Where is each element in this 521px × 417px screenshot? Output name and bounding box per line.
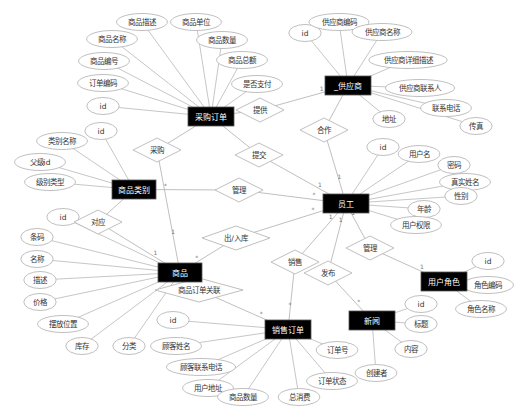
attribute-employee[interactable]: 性别 <box>445 188 477 205</box>
attribute-user_role[interactable]: 角色编码 <box>463 277 514 294</box>
attribute-sales_order[interactable]: 订单号 <box>316 342 358 359</box>
relationship-manage2[interactable]: 管理 <box>346 236 394 260</box>
attribute-supplier[interactable]: 供应商联系人 <box>385 80 454 97</box>
entity-category[interactable]: 商品类别 <box>112 180 156 199</box>
attribute-sales_order[interactable]: 总消费 <box>278 389 320 406</box>
attribute-purchase_order[interactable]: 是否支付 <box>232 76 283 93</box>
attribute-sales_order[interactable]: 顾客联系电话 <box>166 359 235 376</box>
relationship-label: 出/入库 <box>224 233 249 243</box>
attribute-user_role[interactable]: 角色名称 <box>456 301 507 318</box>
attribute-product[interactable]: 名称 <box>21 251 53 268</box>
attribute-purchase_order[interactable]: 订单编码 <box>78 75 129 92</box>
attribute-product[interactable]: 摆放位置 <box>38 316 89 333</box>
attribute-label: 条码 <box>30 232 45 242</box>
attribute-sales_order[interactable]: 订单状态 <box>307 373 358 390</box>
attribute-supplier[interactable]: 传真 <box>460 118 492 135</box>
entity-employee[interactable]: 员工 <box>323 194 369 213</box>
cardinality-label: 1 <box>329 213 333 220</box>
attribute-purchase_order[interactable]: 商品数量 <box>197 32 248 49</box>
attribute-user_role[interactable]: id <box>472 253 504 270</box>
attribute-purchase_order[interactable]: 商品单位 <box>171 14 222 31</box>
attribute-purchase_order[interactable]: 商品总额 <box>217 52 268 69</box>
attribute-employee[interactable]: 密码 <box>438 157 470 174</box>
attribute-purchase_order[interactable]: 商品编号 <box>79 53 130 70</box>
attribute-sales_order[interactable]: 顾客姓名 <box>151 338 202 355</box>
relationship-stock[interactable]: 出/入库 <box>202 226 270 250</box>
attribute-label: 订单状态 <box>318 376 347 386</box>
attribute-product[interactable]: 分类 <box>113 338 145 355</box>
entity-user_role[interactable]: 用户角色 <box>421 272 467 291</box>
entity-sales_order[interactable]: 销售订单 <box>265 320 311 339</box>
cardinality-label: 1 <box>339 216 343 223</box>
attribute-label: 创建者 <box>366 368 388 378</box>
relationship-label: 商品订单关联 <box>178 285 221 295</box>
attribute-sales_order[interactable]: 商品数量 <box>218 389 269 406</box>
attribute-news[interactable]: id <box>405 296 437 313</box>
attribute-employee[interactable]: 年龄 <box>408 201 440 218</box>
attribute-label: 角色编码 <box>474 280 503 290</box>
attribute-category[interactable]: 级别类型 <box>25 174 76 191</box>
attribute-product[interactable]: 库存 <box>66 338 98 355</box>
entity-product[interactable]: 商品 <box>158 263 202 282</box>
attribute-category[interactable]: 父级id <box>15 154 66 171</box>
cardinality-label: 1 <box>153 249 157 256</box>
attribute-label: id <box>380 143 387 152</box>
attribute-label: 商品总额 <box>228 55 257 65</box>
attribute-label: 传真 <box>469 121 484 131</box>
attribute-label: 摆放位置 <box>49 319 78 329</box>
cardinality-label: 1 <box>320 85 324 92</box>
attribute-employee[interactable]: 用户名 <box>398 146 440 163</box>
attribute-product[interactable]: 价格 <box>24 294 56 311</box>
attribute-news[interactable]: 创建者 <box>355 365 397 382</box>
relationship-cooperate[interactable]: 合作 <box>300 118 348 142</box>
attribute-product[interactable]: 描述 <box>24 272 56 289</box>
attribute-label: 总消费 <box>289 392 311 402</box>
relationship-label: 管理 <box>232 185 247 195</box>
attribute-label: 供应商联系人 <box>399 83 442 93</box>
attribute-label: 库存 <box>75 341 90 351</box>
attribute-label: 用户权限 <box>402 220 431 230</box>
entity-label: 员工 <box>338 200 354 209</box>
attribute-category[interactable]: 类别名称 <box>37 133 88 150</box>
attribute-purchase_order[interactable]: 商品描述 <box>117 14 168 31</box>
attribute-label: id <box>302 29 309 38</box>
cardinality-label: 1 <box>171 228 175 235</box>
attribute-sales_order[interactable]: id <box>157 312 189 329</box>
attribute-label: id <box>485 257 492 266</box>
relationship-correspond[interactable]: 对应 <box>74 210 122 234</box>
attribute-line <box>112 39 211 117</box>
attribute-news[interactable]: 标题 <box>405 316 437 333</box>
attribute-label: 供应商编码 <box>322 17 358 27</box>
cardinality-label: * <box>195 254 198 261</box>
cardinality-label: * <box>312 206 315 213</box>
relationship-submit[interactable]: 提交 <box>235 143 283 167</box>
attribute-supplier[interactable]: 供应商名称 <box>352 24 412 41</box>
relationship-supply[interactable]: 提供 <box>236 98 284 122</box>
attribute-label: id <box>418 300 425 309</box>
attribute-employee[interactable]: 用户权限 <box>391 217 442 234</box>
attribute-purchase_order[interactable]: id <box>87 98 119 115</box>
attribute-employee[interactable]: id <box>367 139 399 156</box>
attribute-label: 地址 <box>382 114 397 124</box>
relationship-manage1[interactable]: 管理 <box>215 178 263 202</box>
attribute-supplier[interactable]: 联系电话 <box>421 100 472 117</box>
entity-supplier[interactable]: _供应商 <box>325 76 371 95</box>
attribute-supplier[interactable]: 供应商详细描述 <box>369 52 447 69</box>
relationship-purchase[interactable]: 采购 <box>133 138 181 162</box>
attribute-label: 真实姓名 <box>451 177 479 187</box>
attribute-label: 分类 <box>122 341 137 351</box>
entity-news[interactable]: 新闻 <box>349 311 395 330</box>
relationship-edge: 1 <box>157 150 180 273</box>
attribute-category[interactable]: id <box>85 123 117 140</box>
cardinality-label: * <box>357 298 360 305</box>
cardinality-label: * <box>260 310 263 317</box>
attribute-label: 价格 <box>33 297 48 307</box>
entity-purchase_order[interactable]: 采购订单 <box>188 107 234 126</box>
attribute-label: 订单编码 <box>89 78 118 88</box>
attribute-purchase_order[interactable]: 商品名称 <box>87 31 138 48</box>
attribute-product[interactable]: 条码 <box>21 229 53 246</box>
attribute-product[interactable]: id <box>47 209 79 226</box>
attribute-news[interactable]: 内容 <box>395 341 427 358</box>
attribute-supplier[interactable]: 地址 <box>373 111 405 128</box>
cardinality-label: 1 <box>318 181 322 188</box>
